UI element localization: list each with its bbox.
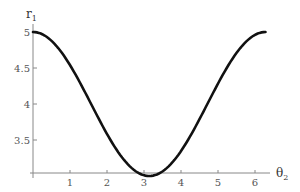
- x-tick-label: 5: [215, 177, 221, 188]
- chart: 3.544.55 123456 r1 θ2: [0, 0, 300, 192]
- x-tick-label: 3: [141, 177, 147, 188]
- y-axis-label: r1: [26, 7, 37, 23]
- y-tick-label: 4.5: [14, 63, 30, 74]
- x-tick-label: 1: [67, 177, 73, 188]
- x-tick-label: 2: [104, 177, 110, 188]
- y-tick-label: 3.5: [14, 135, 30, 146]
- y-ticks: 3.544.55: [14, 27, 37, 146]
- y-tick-label: 4: [24, 99, 30, 110]
- x-axis-label: θ2: [276, 166, 288, 182]
- data-line-r1: [33, 32, 265, 176]
- x-tick-label: 6: [252, 177, 258, 188]
- y-tick-label: 5: [24, 27, 30, 38]
- x-tick-label: 4: [178, 177, 184, 188]
